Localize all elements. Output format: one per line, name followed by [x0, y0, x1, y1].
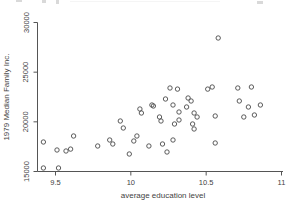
cropped-text-fragment — [56, 0, 59, 4]
y-tick-label: 15000 — [22, 161, 31, 182]
data-point — [163, 97, 167, 101]
data-point — [189, 99, 193, 103]
data-point — [236, 86, 240, 90]
data-point — [165, 150, 169, 154]
y-axis-title: 1979 Median Family Inc. — [2, 53, 11, 140]
data-point — [192, 111, 196, 115]
y-tick-label: 20000 — [22, 111, 31, 132]
data-point — [242, 115, 246, 119]
data-point — [68, 147, 72, 151]
data-point — [41, 166, 45, 170]
data-point — [177, 110, 181, 114]
data-point — [41, 140, 45, 144]
data-point — [206, 87, 210, 91]
y-tick-label: 30000 — [22, 12, 31, 33]
data-point — [64, 149, 68, 153]
data-point — [210, 85, 214, 89]
y-tick-label: 25000 — [22, 62, 31, 83]
data-points — [41, 36, 262, 170]
x-tick-label: 11 — [278, 178, 286, 187]
data-point — [175, 87, 179, 91]
data-point — [184, 105, 188, 109]
x-tick-label: 10 — [127, 178, 135, 187]
data-point — [135, 134, 139, 138]
data-point — [190, 122, 194, 126]
scatter-plot-figure: 9.51010.51115000200002500030000 average … — [0, 0, 293, 205]
data-point — [159, 119, 163, 123]
data-point — [171, 138, 175, 142]
data-point — [118, 119, 122, 123]
data-point — [139, 111, 143, 115]
data-point — [127, 152, 131, 156]
data-point — [121, 126, 125, 130]
data-point — [258, 103, 262, 107]
axes: 9.51010.51115000200002500030000 — [22, 12, 286, 186]
data-point — [213, 114, 217, 118]
cropped-text-fragment — [42, 0, 46, 3]
data-point — [172, 122, 176, 126]
data-point — [171, 103, 175, 107]
data-point — [168, 86, 172, 90]
cropped-text-fragment — [16, 0, 22, 2]
data-point — [246, 105, 250, 109]
data-point — [71, 134, 75, 138]
data-point — [195, 115, 199, 119]
data-point — [96, 144, 100, 148]
data-point — [213, 141, 217, 145]
data-point — [192, 127, 196, 131]
x-tick-label: 9.5 — [50, 178, 60, 187]
data-point — [132, 139, 136, 143]
cropped-text-fragment — [257, 1, 263, 4]
data-point — [55, 148, 59, 152]
data-point — [111, 142, 115, 146]
data-point — [177, 118, 181, 122]
data-point — [237, 99, 241, 103]
scatter-plot-canvas: 9.51010.51115000200002500030000 average … — [0, 0, 293, 205]
x-axis-title: average education level — [121, 191, 206, 200]
cropped-text-fragment — [70, 1, 220, 2]
data-point — [160, 142, 164, 146]
data-point — [147, 144, 151, 148]
data-point — [249, 85, 253, 89]
x-tick-label: 10.5 — [199, 178, 214, 187]
data-point — [56, 166, 60, 170]
data-point — [252, 113, 256, 117]
data-point — [108, 138, 112, 142]
data-point — [216, 36, 220, 40]
